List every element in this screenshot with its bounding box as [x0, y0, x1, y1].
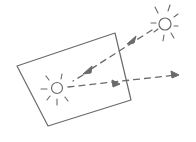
panel-outline	[17, 33, 131, 126]
incoming-ray-arrow	[73, 30, 152, 81]
inner-sun-icon	[41, 74, 68, 105]
arrowhead-icon	[127, 36, 136, 44]
outer-sun-icon	[151, 5, 178, 41]
arrowhead-icon	[83, 66, 92, 74]
arrowhead-icon	[171, 71, 179, 78]
diagram-canvas	[0, 0, 196, 142]
